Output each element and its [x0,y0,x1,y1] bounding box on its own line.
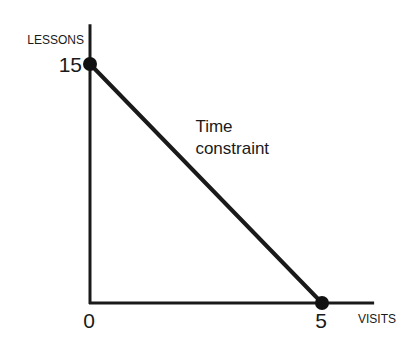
x-axis-title: VISITS [358,312,396,326]
time-constraint-chart: LESSONS VISITS 0 5 15 Time constraint [0,0,416,349]
x-tick-labels: 0 5 [83,309,327,332]
annotation-line-1: Time [195,117,232,136]
time-constraint-line [90,64,322,303]
y-tick-label-15: 15 [59,53,82,76]
time-constraint-annotation: Time constraint [195,117,269,158]
y-tick-labels: 15 [59,53,82,76]
annotation-line-2: constraint [195,139,269,158]
y-axis-title: LESSONS [27,33,84,47]
data-point-0-15 [83,57,97,71]
x-tick-label-0: 0 [83,309,95,332]
data-point-5-0 [315,296,329,310]
x-tick-label-5: 5 [315,309,327,332]
